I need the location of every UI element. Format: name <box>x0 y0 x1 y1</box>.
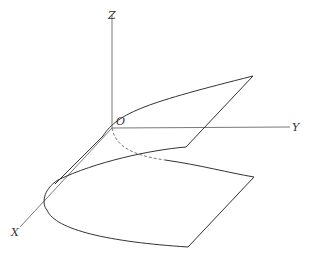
diagram-canvas: Z Y X O <box>0 0 310 261</box>
y-axis-label: Y <box>292 121 301 134</box>
z-axis-label: Z <box>107 9 116 22</box>
lower-sheet-front-curve <box>44 180 188 247</box>
lower-sheet-back-curve <box>165 160 254 177</box>
upper-sheet-right-edge <box>186 76 253 147</box>
lower-sheet-right-edge <box>188 177 254 247</box>
upper-sheet-bottom-curve <box>58 147 186 180</box>
vertex-ruling-line <box>55 136 103 184</box>
x-axis-label: X <box>10 226 20 239</box>
y-axis <box>112 127 290 128</box>
x-axis <box>20 128 112 227</box>
hidden-parabola-dashed <box>112 128 165 160</box>
origin-label: O <box>116 115 125 128</box>
